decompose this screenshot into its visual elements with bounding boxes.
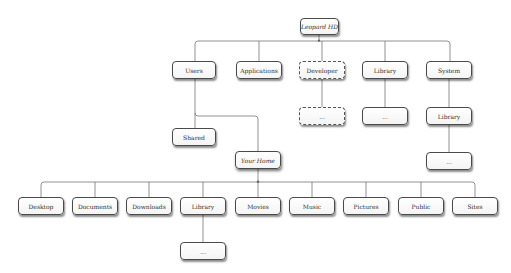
node-developer[interactable]: Developer <box>299 61 345 79</box>
node-library-root[interactable]: Library <box>362 61 408 79</box>
node-library-home[interactable]: Library <box>180 197 226 215</box>
node-movies[interactable]: Movies <box>235 197 281 215</box>
node-system-library[interactable]: Library <box>426 107 472 125</box>
node-downloads[interactable]: Downloads <box>126 197 172 215</box>
node-pictures[interactable]: Pictures <box>343 197 389 215</box>
folder-hierarchy-diagram: Leopard HD Users Applications Developer … <box>0 0 511 273</box>
node-desktop[interactable]: Desktop <box>18 197 64 215</box>
node-developer-more[interactable]: ... <box>299 107 345 125</box>
node-shared[interactable]: Shared <box>172 128 216 146</box>
node-users[interactable]: Users <box>172 61 216 79</box>
node-sites[interactable]: Sites <box>452 197 498 215</box>
node-system[interactable]: System <box>426 61 472 79</box>
node-library-root-more[interactable]: ... <box>362 107 408 125</box>
node-library-home-more[interactable]: ... <box>180 242 226 260</box>
node-leopard-hd[interactable]: Leopard HD <box>300 18 339 35</box>
node-applications[interactable]: Applications <box>236 61 282 79</box>
node-public[interactable]: Public <box>398 197 444 215</box>
node-your-home[interactable]: Your Home <box>235 151 281 169</box>
connector-lines <box>0 0 511 273</box>
node-system-library-more[interactable]: ... <box>426 152 472 170</box>
node-music[interactable]: Music <box>289 197 335 215</box>
node-documents[interactable]: Documents <box>72 197 118 215</box>
